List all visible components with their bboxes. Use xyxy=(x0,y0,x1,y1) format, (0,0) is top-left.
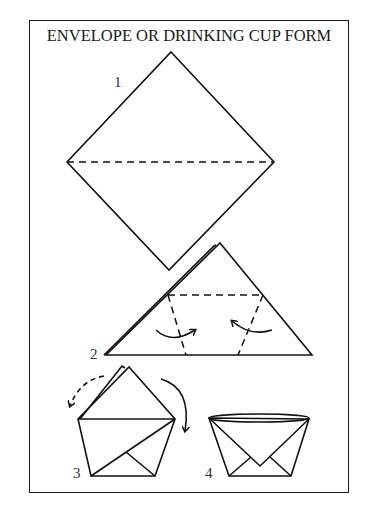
diagonal-flap xyxy=(91,419,175,476)
origami-diagram-page: ENVELOPE OR DRINKING CUP FORM 1 2 3 xyxy=(0,0,365,505)
right-fold-line xyxy=(238,295,263,355)
step-2-number: 2 xyxy=(90,346,98,362)
step-1-number: 1 xyxy=(114,74,122,90)
step-2-figure: 2 xyxy=(90,243,312,362)
inner-right-flap xyxy=(270,457,291,476)
step-3-figure: 3 xyxy=(70,366,186,481)
pentagon-shape xyxy=(78,367,175,476)
inner-flap xyxy=(126,452,155,476)
left-fold-line xyxy=(168,295,186,355)
step-4-figure: 4 xyxy=(205,414,309,481)
square-paper-shape xyxy=(67,52,274,270)
inner-left-flap xyxy=(229,457,251,476)
step-1-figure: 1 xyxy=(67,52,274,270)
step-3-number: 3 xyxy=(73,465,81,481)
front-v-flap xyxy=(209,418,309,466)
tuck-back-arrow-icon xyxy=(70,376,104,406)
fold-right-arrow-icon xyxy=(156,330,195,338)
cup-body-shape xyxy=(209,418,309,476)
folded-triangle-shape xyxy=(106,243,312,355)
step-4-number: 4 xyxy=(205,465,213,481)
diagram-canvas: 1 2 3 4 xyxy=(0,0,365,505)
